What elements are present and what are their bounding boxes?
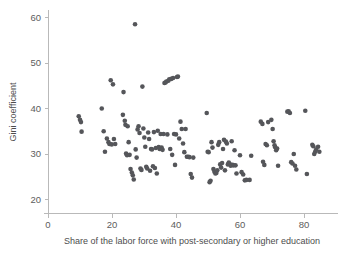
data-point [139,168,144,173]
data-point [215,168,220,173]
data-point [223,168,228,173]
data-point [260,122,265,127]
data-point [176,74,181,79]
data-point [79,129,84,134]
x-tick-label: 60 [235,219,246,230]
data-point [217,140,222,145]
x-tick-label: 20 [107,219,118,230]
data-point [168,147,173,152]
data-point [234,171,239,176]
x-axis-ticks: 020406080 [45,214,309,231]
data-point [147,137,152,142]
data-point [183,127,188,132]
data-point [208,179,213,184]
data-point [209,140,214,145]
data-point [121,113,126,118]
data-point [101,129,106,134]
data-point [269,118,274,123]
data-point [181,141,186,146]
data-point [262,163,267,168]
data-point [303,108,308,113]
data-point [220,161,225,166]
data-point [99,106,104,111]
data-point [160,148,165,153]
data-point [316,144,321,149]
data-point [221,147,226,152]
y-tick-label: 40 [30,103,41,114]
data-point [271,139,276,144]
data-point [190,175,195,180]
data-point [270,127,275,132]
data-point [134,155,139,160]
data-point [113,142,118,147]
data-point [123,118,128,123]
data-point [182,150,187,155]
data-point [103,149,108,154]
data-point [133,22,138,27]
data-point [238,153,243,158]
data-point [206,150,211,155]
data-point [174,132,179,137]
data-point [127,153,132,158]
axes-group [44,10,338,214]
data-point [249,153,254,158]
data-point [178,119,183,124]
data-point [155,171,160,176]
data-point [133,147,138,152]
data-point [170,153,175,158]
data-point [131,177,136,182]
x-tick-label: 80 [299,219,310,230]
x-tick-label: 0 [45,219,50,230]
data-point [232,148,237,153]
data-point [177,136,182,141]
data-point [265,143,270,148]
data-point [275,146,280,151]
plot-area: 2030405060 020406080 Share of the labor … [0,0,346,256]
data-point [165,132,170,137]
x-tick-label: 40 [171,219,182,230]
data-point [247,178,252,183]
data-point [126,140,131,145]
y-tick-label: 30 [30,148,41,159]
data-point [219,165,224,170]
data-point [143,144,148,149]
data-point [173,163,178,168]
data-point [229,139,234,144]
data-point [276,163,281,168]
data-point [288,111,293,116]
y-axis-ticks: 2030405060 [30,12,48,205]
data-point [305,172,310,177]
y-tick-label: 20 [30,194,41,205]
scatter-chart: 2030405060 020406080 Share of the labor … [0,0,346,256]
data-point [136,124,141,129]
data-point [140,84,145,89]
y-tick-label: 60 [30,12,41,23]
y-axis-title: Gini coefficient [8,82,18,141]
data-point [146,130,151,135]
y-tick-label: 50 [30,57,41,68]
data-point [108,78,113,83]
data-point [225,141,230,146]
data-point [137,131,142,136]
data-point [121,90,126,95]
data-point [204,111,209,116]
data-point [148,168,153,173]
data-point [317,149,322,154]
data-point [153,166,158,171]
data-points-layer [76,22,321,184]
data-point [191,155,196,160]
data-point [131,173,136,178]
data-point [233,163,238,168]
data-point [294,167,299,172]
data-point [210,145,215,150]
data-point [111,82,116,87]
data-point [112,137,117,142]
data-point [291,152,296,157]
x-axis-title: Share of the labor force with post-secon… [64,236,320,246]
data-point [241,172,246,177]
data-point [79,120,84,125]
data-point [142,135,147,140]
data-point [141,126,146,131]
data-point [125,124,130,129]
data-point [171,76,176,81]
